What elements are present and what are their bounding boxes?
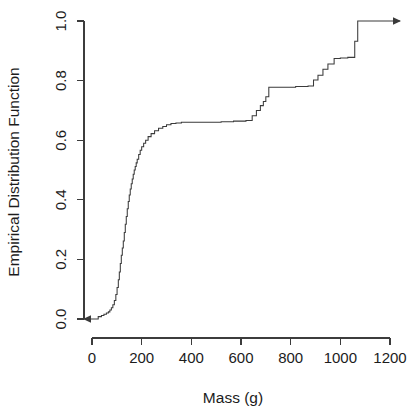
x-axis-tick-label: 1000 bbox=[324, 349, 357, 366]
x-axis-tick-labels: 020040060080010001200 bbox=[88, 349, 407, 366]
y-axis-tick-label: 0.0 bbox=[52, 309, 69, 330]
ecdf-step-curve bbox=[84, 21, 400, 319]
y-axis-title: Empirical Distribution Function bbox=[5, 67, 22, 276]
x-axis-tick-label: 600 bbox=[228, 349, 253, 366]
y-axis-ticks bbox=[77, 21, 84, 319]
x-axis-ticks bbox=[92, 338, 390, 345]
x-axis-title: Mass (g) bbox=[203, 389, 263, 406]
x-axis-tick-label: 1200 bbox=[373, 349, 406, 366]
x-axis-tick-label: 400 bbox=[179, 349, 204, 366]
right-arrow-icon bbox=[393, 17, 401, 25]
ecdf-plot-svg: 020040060080010001200 0.00.20.40.60.81.0… bbox=[0, 0, 416, 416]
x-axis-tick-label: 200 bbox=[129, 349, 154, 366]
y-axis-tick-label: 0.6 bbox=[52, 130, 69, 151]
ecdf-chart-figure: 020040060080010001200 0.00.20.40.60.81.0… bbox=[0, 0, 416, 416]
y-axis-tick-label: 0.2 bbox=[52, 249, 69, 270]
y-axis-tick-labels: 0.00.20.40.60.81.0 bbox=[52, 11, 69, 330]
y-axis-tick-label: 0.8 bbox=[52, 70, 69, 91]
x-axis-tick-label: 0 bbox=[88, 349, 96, 366]
x-axis-tick-label: 800 bbox=[278, 349, 303, 366]
y-axis-tick-label: 0.4 bbox=[52, 189, 69, 210]
y-axis-tick-label: 1.0 bbox=[52, 11, 69, 32]
